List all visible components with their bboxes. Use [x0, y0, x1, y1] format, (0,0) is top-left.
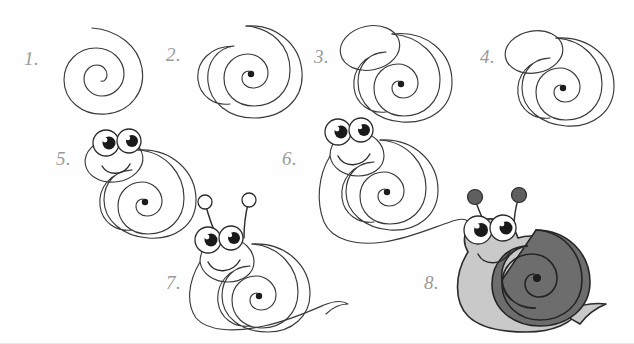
left-eye-glint-5	[103, 138, 108, 143]
spiral-path-2	[224, 26, 290, 106]
body-outline-7	[190, 262, 348, 330]
shell-outline-6	[342, 140, 438, 230]
drawing-sheet: 1. 2. 3. 4. 5.	[0, 0, 634, 344]
smile-5	[102, 164, 130, 173]
left-antenna-ball-8	[468, 190, 483, 205]
step-number-5: 5.	[56, 148, 71, 170]
shell-outline-7	[218, 244, 310, 332]
finished-colored-snail	[440, 186, 620, 338]
step-number-3: 3.	[314, 46, 329, 68]
left-eye-glint-7	[205, 235, 210, 240]
left-eye-glint-8	[474, 223, 479, 228]
right-antenna-ball-8	[512, 188, 527, 203]
closed-shell-drawing	[188, 18, 318, 128]
head-oval-4	[502, 26, 566, 77]
head-refined-drawing	[492, 20, 632, 135]
right-antenna-stalk-7	[244, 204, 248, 238]
spiral-path-4	[536, 38, 602, 120]
right-eye-glint-5	[126, 136, 130, 140]
antennae-and-tail-drawing	[178, 192, 353, 332]
open-spiral-drawing	[50, 22, 170, 122]
step-illustration-3	[330, 10, 470, 130]
spiral-center-dot-6	[384, 189, 390, 195]
step-number-8: 8.	[424, 272, 439, 294]
smile-7	[208, 260, 240, 271]
spiral-path-5	[118, 150, 184, 234]
step-illustration-8	[440, 186, 620, 338]
head-oval-3	[336, 20, 404, 76]
step-illustration-4	[492, 20, 632, 135]
spiral-path-1	[64, 28, 143, 114]
spiral-center-dot-2	[248, 71, 254, 77]
right-eye-glint-6	[358, 125, 362, 129]
spiral-center-dot-4	[560, 85, 566, 91]
spiral-center-dot-3	[398, 81, 404, 87]
spiral-center-dot-7	[256, 293, 262, 299]
right-eye-glint-7	[228, 233, 232, 237]
shell-center-dot-8	[533, 274, 541, 282]
spiral-path-6	[360, 140, 426, 224]
left-eye-glint-6	[335, 127, 340, 132]
spiral-path-7	[232, 244, 298, 328]
step-number-2: 2.	[166, 44, 181, 66]
spiral-center-dot-5	[142, 199, 148, 205]
step-illustration-7	[178, 192, 353, 332]
shell-outline-3	[354, 34, 452, 123]
step-illustration-2	[188, 18, 318, 128]
right-eye-glint-8	[500, 222, 505, 227]
head-added-drawing	[330, 10, 470, 130]
left-antenna-ball-7	[198, 195, 212, 209]
step-number-6: 6.	[282, 148, 297, 170]
right-antenna-ball-7	[242, 193, 256, 207]
spiral-path-3	[374, 34, 440, 116]
step-illustration-1	[50, 22, 170, 122]
step-number-1: 1.	[24, 48, 39, 70]
shell-outline-4	[518, 38, 614, 126]
